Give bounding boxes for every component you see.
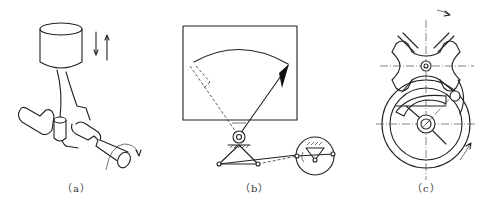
caption-b: （b） [240, 180, 269, 195]
caption-a: （a） [62, 180, 91, 195]
panel-c-geneva-mechanism [0, 0, 486, 204]
caption-c: （c） [412, 180, 441, 195]
